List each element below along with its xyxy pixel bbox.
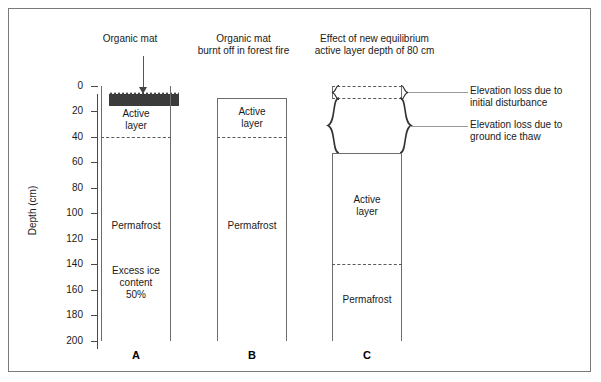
column-a-excess-ice-label-1: Excess ice [93, 265, 179, 277]
y-tick-120 [91, 239, 98, 240]
y-tick-label-0: 0 [53, 81, 83, 91]
y-tick-label-80: 80 [53, 183, 83, 193]
column-b-active-label-1: Active [209, 106, 295, 118]
organic-mat-layer [109, 94, 179, 106]
y-tick-label-120: 120 [53, 234, 83, 244]
y-tick-60 [91, 162, 98, 163]
column-a-excess-ice-label-3: 50% [93, 289, 179, 301]
y-tick-label-20: 20 [53, 106, 83, 116]
organic-mat-arrow-line [143, 56, 144, 89]
y-tick-40 [91, 137, 98, 138]
y-tick-label-100: 100 [53, 208, 83, 218]
column-c-active-label-1: Active [324, 194, 410, 206]
y-tick-label-40: 40 [53, 132, 83, 142]
column-a-letter: A [106, 349, 166, 361]
column-c-active-layer-boundary [332, 264, 402, 265]
callout-initial-disturbance-line1: Elevation loss due to [470, 85, 590, 98]
column-c-surface [332, 153, 402, 154]
leader-ground-ice-thaw [410, 126, 468, 127]
y-tick-label-140: 140 [53, 259, 83, 269]
callout-ground-ice-thaw-line2: ground ice thaw [470, 131, 590, 144]
column-c-active-label-2: layer [324, 206, 410, 218]
y-axis-title: Depth (cm) [27, 166, 38, 256]
column-c-header-line1: Effect of new equilibrium [267, 33, 482, 46]
column-c-right-wall [401, 153, 402, 341]
column-c-letter: C [337, 349, 397, 361]
column-b-active-label-2: layer [209, 118, 295, 130]
y-tick-100 [91, 213, 98, 214]
column-c-original-surface-line [332, 86, 402, 87]
callout-initial-disturbance-line2: initial disturbance [470, 97, 590, 110]
column-c-left-wall [332, 153, 333, 341]
column-a-active-layer-boundary [101, 137, 171, 138]
column-a-active-label-2: layer [93, 120, 179, 132]
y-tick-0 [91, 86, 98, 87]
y-tick-80 [91, 188, 98, 189]
column-a-active-label-1: Active [93, 108, 179, 120]
column-c-permafrost-label: Permafrost [324, 294, 410, 306]
column-b-active-layer-boundary [217, 137, 287, 138]
y-tick-label-60: 60 [53, 157, 83, 167]
y-tick-label-200: 200 [53, 336, 83, 346]
leader-initial-disturbance [408, 92, 468, 93]
y-tick-200 [91, 341, 98, 342]
y-tick-180 [91, 315, 98, 316]
brace-ground-ice-thaw-left-icon [326, 97, 342, 154]
column-b-letter: B [222, 349, 282, 361]
column-a-permafrost-label: Permafrost [93, 220, 179, 232]
column-a-excess-ice-label-2: content [93, 277, 179, 289]
column-b-permafrost-label: Permafrost [209, 220, 295, 232]
column-c-header-line2: active layer depth of 80 cm [267, 45, 482, 58]
callout-ground-ice-thaw-line1: Elevation loss due to [470, 119, 590, 132]
figure-frame: Depth (cm) 0 20 40 60 80 100 120 140 160… [8, 8, 591, 372]
column-b-surface [217, 98, 287, 99]
y-tick-label-180: 180 [53, 310, 83, 320]
y-tick-label-160: 160 [53, 285, 83, 295]
column-c-post-disturbance-surface-line [332, 98, 402, 99]
